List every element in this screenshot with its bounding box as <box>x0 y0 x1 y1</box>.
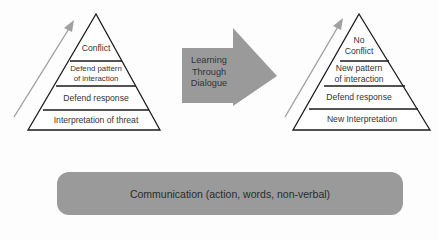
right-level-new-pattern: New pattern of interaction <box>319 63 399 84</box>
right-level-no-conflict: No Conflict <box>329 35 389 57</box>
communication-label: Communication (action, words, non-verbal… <box>130 188 330 200</box>
arrow-label-line-1: Learning <box>182 55 236 67</box>
left-level-defend-response: Defend response <box>46 93 146 103</box>
communication-foundation-bar: Communication (action, words, non-verbal… <box>57 172 403 215</box>
left-level-defend-pattern: Defend pattern of interaction <box>56 64 136 83</box>
arrow-label-line-2: Through <box>182 67 236 79</box>
left-level-conflict: Conflict <box>66 43 126 53</box>
arrow-label: Learning Through Dialogue <box>182 55 236 90</box>
right-level-new-interpretation: New Interpretation <box>300 114 424 124</box>
left-level-interpretation-of-threat: Interpretation of threat <box>34 115 158 125</box>
arrow-label-line-3: Dialogue <box>182 78 236 90</box>
right-level-defend-response: Defend response <box>309 92 409 102</box>
